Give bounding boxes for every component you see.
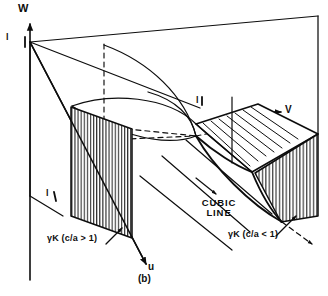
label-gamma-k-ca-greater-than-one: γK (c/a > 1) bbox=[47, 234, 97, 243]
tick-label-origin: l bbox=[6, 33, 9, 42]
tick-label-left-panel: l bbox=[46, 189, 49, 198]
u-axis-extension bbox=[282, 222, 312, 244]
tick-label-ribbon-top: l bbox=[196, 96, 199, 105]
label-gamma-k-ca-less-than-one: γK (c/a < 1) bbox=[228, 230, 278, 239]
figure-caption: (b) bbox=[138, 274, 151, 285]
label-cubic-line-row2: LINE bbox=[188, 208, 250, 218]
axis-label-w: W bbox=[18, 3, 29, 15]
axis-label-v: V bbox=[285, 105, 292, 116]
figure-root: W u V l l l γK (c/a > 1) CUBIC LINE γK (… bbox=[0, 0, 328, 296]
axis-label-u: u bbox=[148, 262, 154, 273]
figure-diagram-svg bbox=[0, 0, 328, 296]
label-cubic-line: CUBIC LINE bbox=[188, 198, 250, 218]
